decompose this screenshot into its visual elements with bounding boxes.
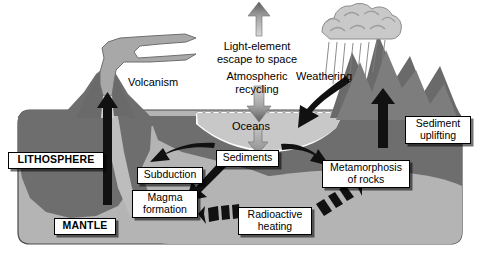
rain-cloud [322, 3, 401, 39]
label-sediment-uplifting: Sediment uplifting [405, 116, 471, 144]
label-lithosphere: LITHOSPHERE [8, 152, 104, 169]
label-subduction: Subduction [137, 167, 203, 184]
escape-to-space-arrow [248, 2, 270, 36]
diagram-canvas: Volcanism Light-element escape to space … [0, 0, 480, 259]
label-light-element-escape: Light-element escape to space [203, 40, 311, 65]
label-oceans: Oceans [226, 120, 276, 133]
label-sediments: Sediments [216, 150, 279, 167]
label-magma-formation: Magma formation [132, 190, 198, 218]
label-weathering: Weathering [287, 70, 361, 83]
label-mantle: MANTLE [54, 218, 116, 235]
label-metamorphosis-of-rocks: Metamorphosis of rocks [322, 160, 410, 188]
label-radioactive-heating: Radioactive heating [238, 207, 312, 235]
label-volcanism: Volcanism [118, 76, 188, 89]
